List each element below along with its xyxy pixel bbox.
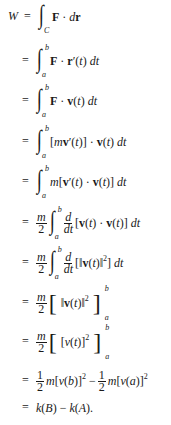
fraction-m-over-2: m2	[36, 252, 47, 275]
integrand: F · r′(t) dt	[50, 54, 99, 69]
equals-sign: =	[22, 400, 29, 415]
integrand: F · v(t) dt	[50, 94, 97, 109]
equals-sign: =	[22, 334, 29, 349]
line-integral-icon: ∫C	[38, 2, 50, 32]
equals-sign: =	[22, 215, 29, 230]
integrand: [v(t) · v(t)] dt	[75, 216, 140, 231]
integrand: m[v′(t) · v(t)] dt	[50, 175, 126, 190]
equals-sign: =	[22, 255, 29, 270]
evaluation-bracket: [‖v(t)‖2] ba	[49, 289, 109, 317]
fraction-m-over-2: m2	[36, 212, 47, 235]
equals-sign: =	[22, 174, 29, 189]
fraction-one-half: 12	[36, 370, 44, 393]
equals-sign: =	[22, 295, 29, 310]
integrand: [mv′(t)] · v(t) dt	[50, 135, 126, 150]
integral-icon: ∫ba	[36, 46, 48, 76]
integral-icon: ∫ba	[36, 86, 48, 116]
derivative-operator: ddt	[64, 212, 73, 235]
integral-icon: ∫ba	[49, 208, 61, 238]
equals-sign: =	[22, 373, 29, 388]
fraction-one-half: 12	[98, 370, 106, 393]
final-result: k(B) − k(A).	[36, 401, 93, 416]
integral-icon: ∫ba	[36, 167, 48, 197]
equals-sign: =	[22, 53, 29, 68]
equals-sign: =	[22, 134, 29, 149]
integrand: [‖v(t)‖2] dt	[75, 256, 123, 271]
fraction-m-over-2: m2	[36, 292, 47, 315]
equals-sign: =	[24, 9, 31, 24]
derivative-operator: ddt	[64, 252, 73, 275]
equals-sign: =	[22, 93, 29, 108]
fraction-m-over-2: m2	[36, 331, 47, 354]
work-symbol: W	[8, 9, 18, 24]
integral-icon: ∫ba	[49, 248, 61, 278]
integrand: F · dr	[52, 10, 81, 25]
evaluation-bracket: [[v(t)]2] ba	[49, 328, 110, 356]
integral-icon: ∫ba	[36, 127, 48, 157]
